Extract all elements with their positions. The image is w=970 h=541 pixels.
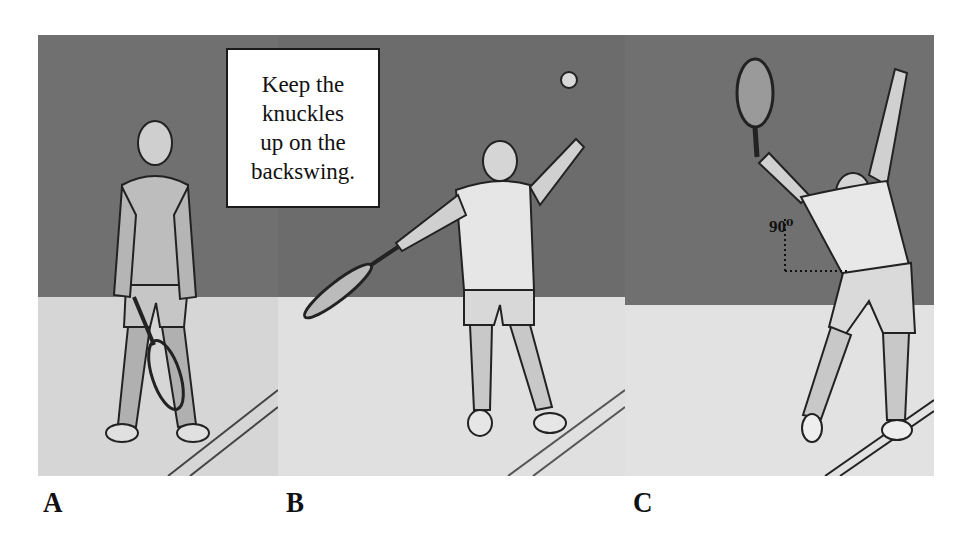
panel-label-a: A	[43, 485, 63, 520]
panel-label-c: C	[633, 485, 653, 520]
coaching-tip-text: Keep the knuckles up on the backswing.	[251, 70, 355, 186]
coaching-tip-callout: Keep the knuckles up on the backswing.	[226, 48, 380, 208]
callout-line-3: up on the	[260, 130, 346, 155]
panel-c-illustration	[625, 35, 934, 476]
panel-label-b: B	[286, 485, 304, 520]
callout-line-1: Keep the	[262, 72, 344, 97]
callout-line-2: knuckles	[262, 101, 344, 126]
callout-line-4: backswing.	[251, 159, 355, 184]
tennis-serve-figure: Keep the knuckles up on the backswing.	[38, 35, 934, 476]
elbow-angle-annotation: 90⁰	[769, 216, 793, 237]
